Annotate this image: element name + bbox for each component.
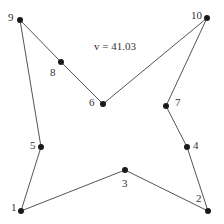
node-3 xyxy=(122,167,128,173)
node-8 xyxy=(58,59,64,65)
node-label-9: 9 xyxy=(8,12,14,23)
node-10 xyxy=(204,15,210,21)
node-label-4: 4 xyxy=(193,140,199,151)
node-5 xyxy=(38,144,44,150)
node-1 xyxy=(18,208,24,214)
node-label-8: 8 xyxy=(50,67,56,78)
tour-diagram: v = 41.03 12345678910 xyxy=(0,0,224,224)
node-4 xyxy=(184,144,190,150)
node-label-6: 6 xyxy=(89,97,95,108)
tour-length-label: v = 41.03 xyxy=(94,40,136,52)
node-label-2: 2 xyxy=(196,193,202,204)
node-6 xyxy=(100,101,106,107)
node-label-10: 10 xyxy=(191,10,202,21)
node-label-7: 7 xyxy=(175,97,181,108)
node-2 xyxy=(205,208,211,214)
tour-edges xyxy=(0,0,224,224)
node-label-3: 3 xyxy=(122,178,128,189)
node-label-5: 5 xyxy=(30,140,36,151)
node-9 xyxy=(17,17,23,23)
node-label-1: 1 xyxy=(11,202,17,213)
node-7 xyxy=(163,103,169,109)
